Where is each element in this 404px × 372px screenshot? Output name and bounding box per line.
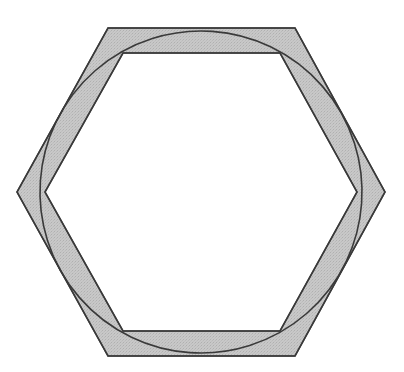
geometric-figure: Hexagonal annulus with inscribed circle … xyxy=(0,0,404,372)
figure-background xyxy=(0,0,404,372)
